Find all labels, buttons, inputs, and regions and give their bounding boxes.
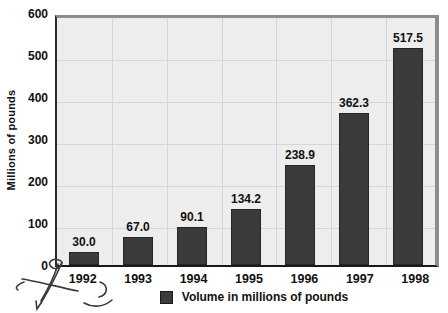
bar	[177, 227, 207, 265]
bar	[123, 237, 153, 265]
bar-value-label: 238.9	[270, 148, 330, 162]
bar-column: 517.5	[381, 18, 435, 265]
x-tick-label: 1997	[332, 272, 387, 286]
bar-value-label: 67.0	[108, 220, 168, 234]
x-tick-label: 1995	[221, 272, 276, 286]
x-tick-label: 1994	[166, 272, 221, 286]
bar-column: 30.0	[57, 18, 111, 265]
bar-value-label: 362.3	[324, 96, 384, 110]
bar-value-label: 134.2	[216, 192, 276, 206]
bar	[231, 209, 261, 265]
y-tick-label: 600	[14, 7, 48, 21]
bar-value-label: 517.5	[378, 31, 438, 45]
bar-value-label: 30.0	[54, 235, 114, 249]
bar-column: 67.0	[111, 18, 165, 265]
plot-area: 30.067.090.1134.2238.9362.3517.5	[55, 15, 439, 267]
x-tick-label: 1996	[277, 272, 332, 286]
bars-container: 30.067.090.1134.2238.9362.3517.5	[57, 18, 435, 265]
legend-swatch-icon	[160, 291, 173, 304]
y-tick-label: 400	[14, 91, 48, 105]
y-tick-label: 500	[14, 49, 48, 63]
bar-value-label: 90.1	[162, 210, 222, 224]
bar-column: 238.9	[273, 18, 327, 265]
y-tick-label: 300	[14, 133, 48, 147]
sketch-doodle-icon	[4, 255, 122, 313]
bar	[339, 113, 369, 265]
bar-chart-figure: Millions of pounds 0100200300400500600 3…	[0, 0, 448, 313]
y-tick-label: 200	[14, 175, 48, 189]
bar-column: 134.2	[219, 18, 273, 265]
bar	[285, 165, 315, 265]
bar-column: 90.1	[165, 18, 219, 265]
bar	[393, 48, 423, 265]
legend-label: Volume in millions of pounds	[182, 290, 348, 304]
y-tick-label: 100	[14, 217, 48, 231]
x-tick-label: 1998	[388, 272, 443, 286]
bar-column: 362.3	[327, 18, 381, 265]
